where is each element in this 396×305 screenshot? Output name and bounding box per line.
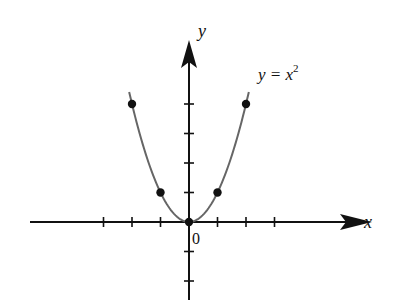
curve-label-text: y = x: [256, 65, 294, 84]
curve-label-exponent: 2: [293, 62, 299, 74]
y-axis-label: y: [196, 21, 206, 41]
data-point: [156, 188, 164, 196]
origin-label: 0: [192, 230, 200, 247]
x-axis-label: x: [363, 212, 372, 232]
data-point: [128, 100, 136, 108]
data-point: [185, 218, 193, 226]
data-point: [242, 100, 250, 108]
axes: [30, 40, 372, 300]
curve-label: y = x2: [256, 62, 299, 84]
parabola-chart: y x 0 y = x2: [0, 0, 396, 305]
data-point: [213, 188, 221, 196]
